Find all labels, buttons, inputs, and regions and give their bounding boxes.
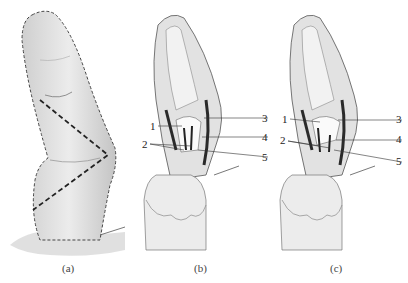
panel-b: 1 2 3 4 5 (b) bbox=[136, 0, 272, 283]
finger-illustration-c bbox=[272, 0, 408, 283]
label-3: 3 bbox=[396, 114, 402, 125]
label-1: 1 bbox=[150, 121, 156, 132]
label-4: 4 bbox=[396, 134, 402, 145]
label-3: 3 bbox=[262, 113, 268, 124]
label-5: 5 bbox=[396, 156, 402, 167]
caption-a: (a) bbox=[62, 262, 74, 274]
caption-b: (b) bbox=[194, 262, 207, 274]
finger-illustration-b bbox=[136, 0, 272, 283]
label-4: 4 bbox=[262, 132, 268, 143]
panel-a: (a) bbox=[0, 0, 136, 283]
panel-c: 1 2 3 4 5 (c) bbox=[272, 0, 408, 283]
label-5: 5 bbox=[262, 152, 268, 163]
caption-c: (c) bbox=[330, 262, 342, 274]
label-2: 2 bbox=[142, 139, 148, 150]
label-2: 2 bbox=[280, 135, 286, 146]
finger-illustration-a bbox=[0, 0, 136, 283]
label-1: 1 bbox=[282, 114, 288, 125]
